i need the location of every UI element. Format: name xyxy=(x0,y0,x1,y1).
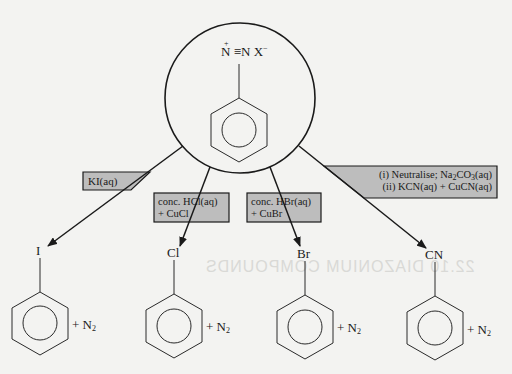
reagent-ki-label: KI(aq) xyxy=(88,175,117,187)
reagent-hcl-label: conc. HCl(aq) + CuCl xyxy=(158,196,217,220)
anion-charge: − xyxy=(263,44,268,53)
cation-charge: + xyxy=(224,37,229,50)
reagent-cn-line2: (ii) KCN(aq) + CuCN(aq) xyxy=(368,181,492,193)
reactant-formula: N + ≡N X− xyxy=(221,45,268,58)
reagent-hcl-line1: conc. HCl(aq) xyxy=(158,196,217,208)
byproduct-n2-bromo: + N2 xyxy=(337,321,361,334)
reagent-hbr-label: conc. HBr(aq) + CuBr xyxy=(251,196,311,220)
reagent-cn-line1: (i) Neutralise; Na2CO3(aq) xyxy=(368,169,492,181)
product-substituent-chloro: Cl xyxy=(167,246,179,259)
product-substituent-cyano: CN xyxy=(425,248,443,261)
triple-bond: ≡ xyxy=(234,44,241,59)
diazonium-n2: N xyxy=(241,44,250,59)
reagent-hcl-line2: + CuCl xyxy=(158,208,217,220)
product-substituent-iodo: I xyxy=(36,244,40,257)
reagent-cn-label: (i) Neutralise; Na2CO3(aq) (ii) KCN(aq) … xyxy=(368,169,492,193)
product-ring-chlorobenzene xyxy=(146,260,202,358)
reagent-hbr-line2: + CuBr xyxy=(251,208,311,220)
byproduct-n2-iodo: + N2 xyxy=(72,318,96,331)
anion: X xyxy=(254,44,263,59)
byproduct-n2-cyano: + N2 xyxy=(467,323,491,336)
product-ring-iodobenzene xyxy=(12,258,68,355)
byproduct-n2-chloro: + N2 xyxy=(206,320,230,333)
diazonium-reaction-diagram: 22.10 DIAZONIUM COMPOUNDS xyxy=(0,0,512,374)
reagent-hbr-line1: conc. HBr(aq) xyxy=(251,196,311,208)
product-ring-benzonitrile xyxy=(407,262,463,360)
product-ring-bromobenzene xyxy=(277,261,333,359)
product-substituent-bromo: Br xyxy=(297,247,310,260)
